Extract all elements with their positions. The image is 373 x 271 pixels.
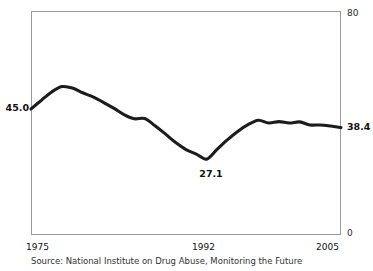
x-axis-tick-label-middle: 1992 — [192, 242, 215, 252]
y-axis-start-value-label: 45.0 — [0, 103, 29, 113]
x-axis-tick-label-last: 2005 — [316, 242, 339, 252]
source-caption: Source: National Institute on Drug Abuse… — [31, 256, 302, 267]
trough-value-annotation: 27.1 — [186, 168, 236, 179]
line-series-path — [31, 86, 341, 159]
y-axis-max-label: 80 — [347, 8, 358, 18]
y-axis-min-label: 0 — [347, 228, 353, 238]
plot-series-svg — [31, 11, 341, 235]
chart-container: 45.0 80 38.4 0 27.1 1975 1992 2005 Sourc… — [0, 0, 373, 271]
x-axis-tick-label-first: 1975 — [26, 242, 49, 252]
y-axis-end-value-label: 38.4 — [347, 122, 370, 132]
